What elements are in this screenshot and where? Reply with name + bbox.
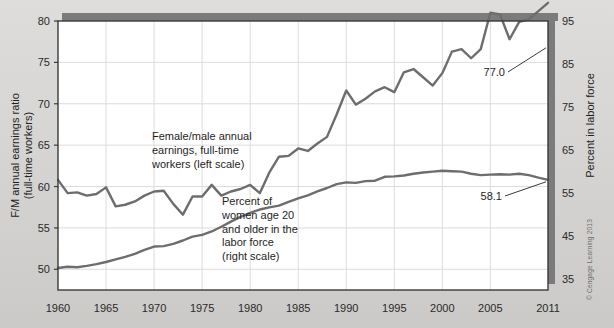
xtick-label: 1970	[142, 302, 166, 314]
ytick-label-left: 50	[38, 263, 50, 275]
xtick-label: 1985	[286, 302, 310, 314]
xtick-label: 1990	[334, 302, 358, 314]
xtick-label: 1995	[382, 302, 406, 314]
figure-canvas: 5055606570758035455565758595196019651970…	[0, 0, 614, 328]
ytick-label-left: 70	[38, 98, 50, 110]
ytick-label-right: 85	[562, 58, 574, 70]
xtick-label: 2011	[536, 302, 560, 314]
xtick-label: 2005	[478, 302, 502, 314]
end-value-label-fm: 77.0	[484, 66, 505, 78]
dual-axis-line-chart: 5055606570758035455565758595196019651970…	[0, 0, 614, 328]
ytick-label-left: 60	[38, 181, 50, 193]
ytick-label-left: 65	[38, 139, 50, 151]
ytick-label-left: 80	[38, 15, 50, 27]
fm-earnings-annotation: Female/male annualearnings, full-timewor…	[151, 130, 252, 170]
xtick-label: 1960	[46, 302, 70, 314]
xtick-label: 1980	[238, 302, 262, 314]
ytick-label-right: 35	[562, 273, 574, 285]
end-value-label-labor: 58.1	[481, 190, 502, 202]
ytick-label-right: 45	[562, 230, 574, 242]
ytick-label-right: 65	[562, 144, 574, 156]
copyright-credit: © Cengage Learning 2013	[586, 219, 594, 300]
xtick-label: 1965	[94, 302, 118, 314]
y-axis-label-left: F/M annual earnings ratio(full-time work…	[9, 93, 34, 218]
ytick-label-left: 55	[38, 222, 50, 234]
frame-shadow-top	[62, 13, 558, 21]
y-axis-label-right: Percent in labor force	[584, 73, 596, 178]
xtick-label: 1975	[190, 302, 214, 314]
frame-shadow-right	[548, 13, 555, 284]
ytick-label-right: 95	[562, 15, 574, 27]
ytick-label-left: 75	[38, 56, 50, 68]
plot-area	[58, 21, 548, 290]
ytick-label-right: 75	[562, 101, 574, 113]
ytick-label-right: 55	[562, 187, 574, 199]
xtick-label: 2000	[430, 302, 454, 314]
